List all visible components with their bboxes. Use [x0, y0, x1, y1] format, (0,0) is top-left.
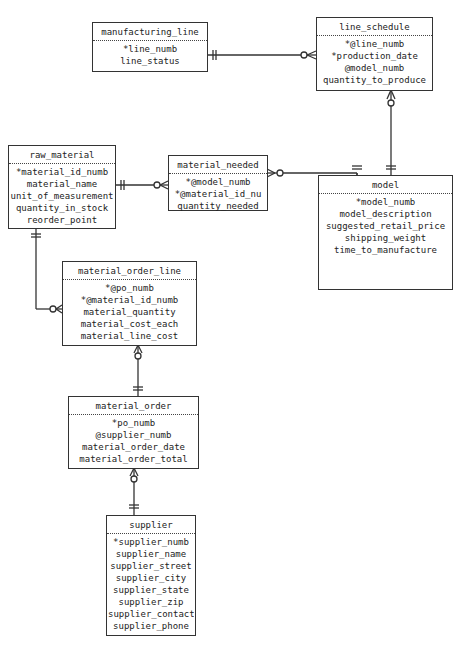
- er-diagram-canvas: manufacturing_line *line_numb line_statu…: [0, 0, 464, 656]
- attribute: *supplier_numb: [108, 536, 194, 548]
- attribute: supplier_phone: [108, 620, 194, 632]
- attribute: quantity_needed: [170, 200, 266, 212]
- attribute: material_order_total: [70, 453, 197, 465]
- entity-supplier[interactable]: supplier *supplier_numb supplier_name su…: [106, 515, 196, 636]
- attribute: supplier_name: [108, 548, 194, 560]
- entity-material-needed[interactable]: material_needed *@model_numb *@material_…: [168, 155, 268, 211]
- attribute: supplier_contact: [108, 608, 194, 620]
- attribute: model_description: [320, 208, 451, 220]
- attribute: reorder_point: [10, 214, 114, 226]
- attribute: unit_of_measurement: [10, 190, 114, 202]
- attribute: material_order_date: [70, 441, 197, 453]
- attribute: quantity_to_produce: [318, 74, 431, 86]
- attribute: *model_numb: [320, 196, 451, 208]
- entity-attributes: *model_numb model_description suggested_…: [319, 194, 452, 259]
- entity-title: line_schedule: [317, 18, 432, 36]
- relationship-raw-material-material-order-line: [31, 228, 62, 313]
- attribute: *material_id_numb: [10, 166, 114, 178]
- entity-attributes: *@line_numb *production_date @model_numb…: [317, 36, 432, 89]
- relationship-material-order-line-material-order: [133, 345, 143, 396]
- entity-model[interactable]: model *model_numb model_description sugg…: [318, 175, 453, 290]
- attribute: line_status: [94, 55, 206, 67]
- entity-attributes: *line_numb line_status: [93, 41, 207, 70]
- attribute: supplier_state: [108, 584, 194, 596]
- attribute: *@material_id_nu: [170, 188, 266, 200]
- entity-title: supplier: [107, 516, 195, 534]
- attribute: *@model_numb: [170, 176, 266, 188]
- relationship-line-schedule-model: [386, 90, 396, 175]
- attribute: *@line_numb: [318, 38, 431, 50]
- attribute: material_line_cost: [64, 330, 195, 342]
- entity-title: material_order_line: [63, 262, 196, 280]
- entity-material-order[interactable]: material_order *po_numb @supplier_numb m…: [68, 396, 199, 469]
- attribute: @model_numb: [318, 62, 431, 74]
- attribute: shipping_weight: [320, 232, 451, 244]
- attribute: *production_date: [318, 50, 431, 62]
- relationship-manufacturing-line-line-schedule: [207, 50, 316, 60]
- attribute: *@po_numb: [64, 282, 195, 294]
- entity-title: raw_material: [9, 146, 115, 164]
- entity-attributes: *@model_numb *@material_id_nu quantity_n…: [169, 174, 267, 215]
- entity-title: manufacturing_line: [93, 23, 207, 41]
- attribute: @supplier_numb: [70, 429, 197, 441]
- relationship-raw-material-material-needed: [115, 180, 168, 190]
- attribute: material_name: [10, 178, 114, 190]
- attribute: supplier_zip: [108, 596, 194, 608]
- entity-attributes: *po_numb @supplier_numb material_order_d…: [69, 415, 198, 468]
- entity-title: material_needed: [169, 156, 267, 174]
- entity-raw-material[interactable]: raw_material *material_id_numb material_…: [8, 145, 116, 229]
- entity-line-schedule[interactable]: line_schedule *@line_numb *production_da…: [316, 17, 433, 91]
- entity-attributes: *material_id_numb material_name unit_of_…: [9, 164, 115, 229]
- entity-title: material_order: [69, 397, 198, 415]
- entity-manufacturing-line[interactable]: manufacturing_line *line_numb line_statu…: [92, 22, 208, 72]
- attribute: time_to_manufacture: [320, 244, 451, 256]
- entity-attributes: *supplier_numb supplier_name supplier_st…: [107, 534, 195, 635]
- attribute: quantity_in_stock: [10, 202, 114, 214]
- attribute: suggested_retail_price: [320, 220, 451, 232]
- attribute: supplier_street: [108, 560, 194, 572]
- relationship-material-order-supplier: [129, 468, 139, 515]
- entity-material-order-line[interactable]: material_order_line *@po_numb *@material…: [62, 261, 197, 346]
- entity-attributes: *@po_numb *@material_id_numb material_qu…: [63, 280, 196, 345]
- attribute: supplier_city: [108, 572, 194, 584]
- attribute: *line_numb: [94, 43, 206, 55]
- entity-title: model: [319, 176, 452, 194]
- attribute: *@material_id_numb: [64, 294, 195, 306]
- attribute: material_cost_each: [64, 318, 195, 330]
- attribute: *po_numb: [70, 417, 197, 429]
- attribute: material_quantity: [64, 306, 195, 318]
